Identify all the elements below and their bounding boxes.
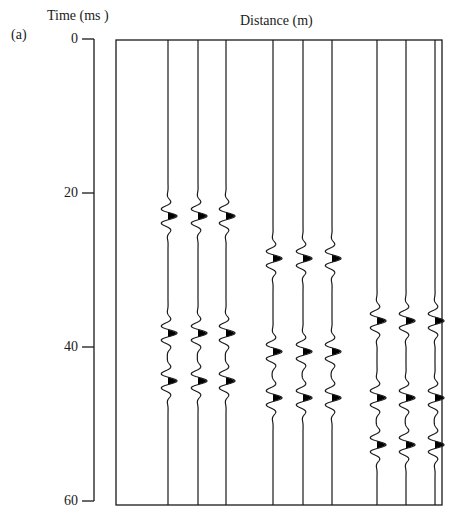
- seismic-plot: [0, 0, 453, 518]
- seismic-trace: [296, 40, 312, 505]
- seismic-trace: [191, 40, 207, 505]
- plot-frame: [116, 40, 442, 505]
- seismic-trace: [399, 40, 415, 505]
- traces-group: [161, 40, 444, 505]
- seismic-trace: [370, 40, 386, 505]
- seismic-trace: [161, 40, 177, 505]
- y-axis: [82, 39, 94, 501]
- seismic-trace: [266, 40, 282, 505]
- seismic-trace: [325, 40, 341, 505]
- seismic-trace: [219, 40, 235, 505]
